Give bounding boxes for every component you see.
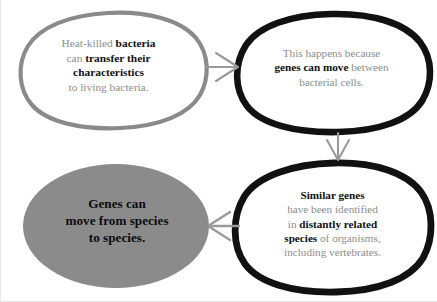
similar-genes-text: Similar geneshave been identifiedin dist… xyxy=(250,188,415,260)
text-line: characteristics xyxy=(31,65,186,80)
text-line: in distantly related xyxy=(250,217,415,231)
text-line: This happens because xyxy=(249,46,414,60)
text-line: move from species xyxy=(37,212,197,229)
text-line: genes can move between xyxy=(249,60,414,74)
text-line: to species. xyxy=(37,229,197,246)
text-line: Similar genes xyxy=(250,188,415,202)
arrow-node2-to-node3-icon xyxy=(327,133,349,160)
heat-killed-bacteria-text: Heat-killed bacteriacan transfer theirch… xyxy=(31,36,186,94)
arrow-node1-to-node2-icon xyxy=(206,53,238,81)
text-line: Genes can xyxy=(37,195,197,212)
text-line: to living bacteria. xyxy=(31,80,186,95)
genes-can-move-text: This happens becausegenes can move betwe… xyxy=(249,46,414,89)
text-line: species of organisms, xyxy=(250,231,415,245)
text-line: can transfer their xyxy=(31,51,186,66)
text-line: including vertebrates. xyxy=(250,245,415,259)
text-line: Heat-killed bacteria xyxy=(31,36,186,51)
text-line: have been identified xyxy=(250,202,415,216)
diagram-canvas: Heat-killed bacteriacan transfer theirch… xyxy=(0,0,437,302)
text-line: bacterial cells. xyxy=(249,75,414,89)
conclusion-text: Genes canmove from speciesto species. xyxy=(37,195,197,246)
